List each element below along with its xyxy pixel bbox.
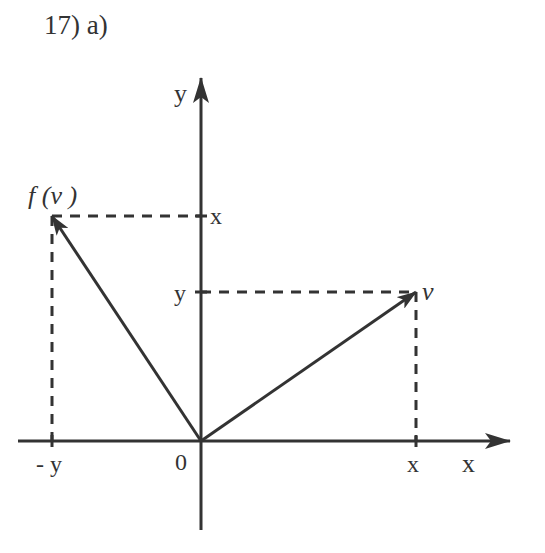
tick-label-x-axis: x bbox=[407, 451, 419, 477]
point-label-v: v bbox=[422, 277, 434, 306]
vector-diagram: y x 0 - y x x y v f (v ) bbox=[0, 0, 545, 553]
tick-label-y-lower: y bbox=[174, 280, 186, 306]
y-axis-label: y bbox=[174, 79, 187, 108]
vector-v bbox=[201, 292, 416, 441]
origin-label: 0 bbox=[175, 449, 187, 475]
x-axis-label: x bbox=[462, 449, 475, 478]
vector-f-v bbox=[52, 216, 201, 441]
point-label-f-v: f (v ) bbox=[28, 181, 77, 210]
tick-label-neg-y: - y bbox=[36, 451, 62, 477]
tick-label-y-upper: x bbox=[210, 203, 222, 229]
